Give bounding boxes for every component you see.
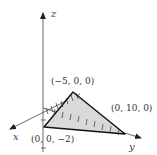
y-axis-label: y — [128, 141, 135, 152]
3d-plane-diagram: z x y (−5, 0, 0) (0, 10, 0) (0, 0, −2) — [0, 0, 157, 155]
x-axis-label: x — [13, 131, 19, 142]
z-axis-label: z — [50, 8, 57, 19]
point-label-neg5-0-0: (−5, 0, 0) — [51, 76, 94, 86]
point-label-0-10-0: (0, 10, 0) — [111, 103, 152, 113]
point-label-0-0-neg2: (0, 0, −2) — [31, 134, 74, 144]
